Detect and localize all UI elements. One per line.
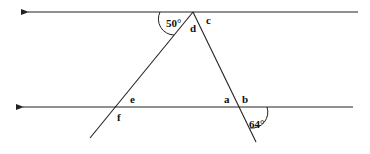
angle-label-e: e [130, 93, 135, 105]
angle-label-d: d [190, 22, 196, 34]
right-transversal [193, 12, 256, 142]
angle-label-f: f [117, 111, 121, 123]
angle-label-b: b [242, 93, 248, 105]
angle-label-a: a [224, 93, 230, 105]
angle-label-50: 50° [166, 17, 181, 29]
left-transversal [90, 12, 193, 138]
diagram-canvas: 50° 64° a b c d e f [0, 0, 370, 154]
angle-label-c: c [206, 14, 211, 26]
angle-label-64: 64° [249, 118, 264, 130]
